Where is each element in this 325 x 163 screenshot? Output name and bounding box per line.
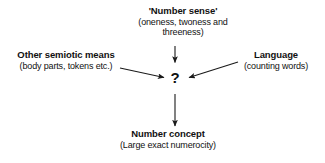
- node-number-sense-subtitle: (oneness, twoness and threeness): [107, 17, 259, 38]
- node-language-subtitle: (counting words): [228, 61, 324, 71]
- node-number-concept-title: Number concept: [93, 129, 243, 140]
- node-other-semiotic-means: Other semiotic means (body parts, tokens…: [4, 50, 128, 71]
- node-other-semiotic-means-subtitle: (body parts, tokens etc.): [4, 61, 128, 71]
- diagram-canvas: 'Number sense' (oneness, twoness and thr…: [0, 0, 325, 163]
- node-number-sense: 'Number sense' (oneness, twoness and thr…: [107, 6, 259, 38]
- node-other-semiotic-means-title: Other semiotic means: [4, 50, 128, 61]
- node-other-semiotic-means-subtitle-line-1: (body parts, tokens etc.): [4, 61, 128, 71]
- node-number-concept-subtitle-line-1: (Large exact numerocity): [93, 140, 243, 150]
- node-language-subtitle-line-1: (counting words): [228, 61, 324, 71]
- node-language-title: Language: [228, 50, 324, 61]
- node-number-concept-subtitle: (Large exact numerocity): [93, 140, 243, 150]
- node-number-sense-title: 'Number sense': [107, 6, 259, 17]
- node-number-sense-subtitle-line-2: threeness): [107, 27, 259, 37]
- node-language: Language (counting words): [228, 50, 324, 71]
- node-number-sense-subtitle-line-1: (oneness, twoness and: [107, 17, 259, 27]
- node-number-concept: Number concept (Large exact numerocity): [93, 129, 243, 150]
- question-mark-node: ?: [167, 68, 183, 88]
